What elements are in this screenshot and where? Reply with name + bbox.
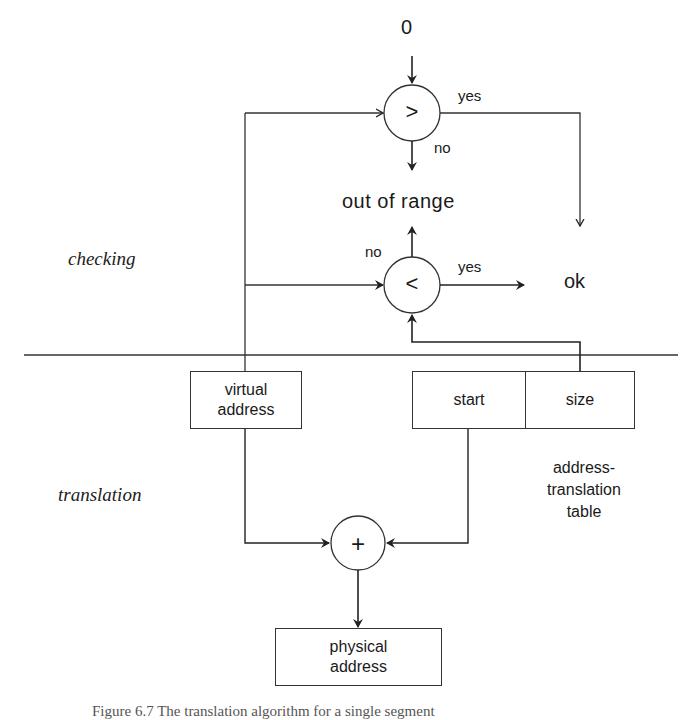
size-label: size xyxy=(566,390,594,410)
table-label-line2: translation xyxy=(538,479,630,501)
virtual-address-line1: virtual xyxy=(225,380,268,400)
start-field-box: start xyxy=(412,371,526,429)
figure-caption: Figure 6.7 The translation algorithm for… xyxy=(92,703,435,720)
less-symbol: < xyxy=(392,271,432,297)
less-no-label: no xyxy=(365,243,382,260)
greater-yes-path xyxy=(440,113,580,226)
virtual-address-line2: address xyxy=(218,400,275,420)
greater-yes-label: yes xyxy=(458,87,481,104)
table-label-line3: table xyxy=(538,501,630,523)
virtual-to-adder-path xyxy=(245,428,329,543)
start-label: start xyxy=(453,390,484,410)
out-of-range-label: out of range xyxy=(342,190,455,213)
size-field-box: size xyxy=(525,371,635,429)
zero-input-label: 0 xyxy=(401,16,412,39)
greater-no-label: no xyxy=(434,139,451,156)
physical-address-box: physical address xyxy=(275,628,442,686)
start-to-adder-path xyxy=(387,428,468,543)
less-yes-label: yes xyxy=(458,258,481,275)
adder-symbol: + xyxy=(343,530,373,558)
ok-label: ok xyxy=(564,270,585,293)
address-translation-table-label: address- translation table xyxy=(538,457,630,523)
size-feed-path xyxy=(412,315,580,371)
virtual-address-box: virtual address xyxy=(190,371,302,429)
physical-address-line1: physical xyxy=(330,637,388,657)
checking-section-label: checking xyxy=(68,248,136,270)
physical-address-line2: address xyxy=(330,657,387,677)
greater-symbol: > xyxy=(392,99,432,125)
table-label-line1: address- xyxy=(538,457,630,479)
translation-section-label: translation xyxy=(58,484,141,506)
